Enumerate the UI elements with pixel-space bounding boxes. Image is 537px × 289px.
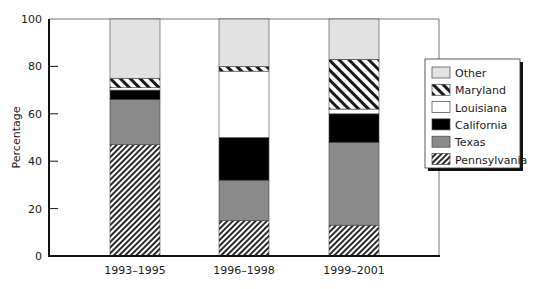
segment-maryland bbox=[219, 66, 269, 71]
legend-item-maryland: Maryland bbox=[432, 84, 506, 97]
legend-label: Maryland bbox=[455, 84, 506, 97]
legend-label: California bbox=[455, 119, 507, 132]
segment-texas bbox=[219, 180, 269, 220]
legend-swatch bbox=[432, 119, 450, 130]
legend-item-pennsylvania: Pennsylvania bbox=[432, 154, 527, 167]
segment-louisiana bbox=[219, 71, 269, 137]
legend-label: Texas bbox=[454, 136, 486, 149]
legend-swatch bbox=[432, 67, 450, 78]
legend-item-texas: Texas bbox=[432, 136, 486, 149]
legend-swatch bbox=[432, 84, 450, 95]
legend-label: Pennsylvania bbox=[455, 154, 527, 167]
segment-louisiana bbox=[329, 109, 379, 114]
y-tick-label: 40 bbox=[28, 155, 42, 168]
x-tick-label: 1996–1998 bbox=[213, 264, 275, 277]
segment-maryland bbox=[110, 78, 160, 87]
legend-label: Louisiana bbox=[455, 102, 507, 115]
segment-other bbox=[110, 19, 160, 78]
x-tick-label: 1999–2001 bbox=[323, 264, 385, 277]
y-tick-label: 80 bbox=[28, 60, 42, 73]
segment-texas bbox=[110, 100, 160, 145]
y-tick-label: 0 bbox=[35, 250, 42, 263]
legend-swatch bbox=[432, 154, 450, 165]
legend: OtherMarylandLouisianaCaliforniaTexasPen… bbox=[425, 59, 527, 171]
segment-louisiana bbox=[110, 88, 160, 90]
x-tick-label: 1993–1995 bbox=[104, 264, 166, 277]
bar-1996–1998: 1996–1998 bbox=[213, 19, 275, 277]
bars: 1993–19951996–19981999–2001 bbox=[104, 19, 385, 277]
segment-texas bbox=[329, 142, 379, 225]
legend-swatch bbox=[432, 136, 450, 147]
y-tick-label: 100 bbox=[21, 13, 42, 26]
segment-other bbox=[329, 19, 379, 59]
y-tick-label: 60 bbox=[28, 108, 42, 121]
stacked-bar-chart: 1993–19951996–19981999–2001 020406080100… bbox=[0, 0, 537, 289]
segment-other bbox=[219, 19, 269, 66]
segment-pennsylvania bbox=[219, 220, 269, 256]
segment-pennsylvania bbox=[110, 145, 160, 256]
segment-maryland bbox=[329, 59, 379, 109]
segment-california bbox=[329, 114, 379, 142]
legend-swatch bbox=[432, 102, 450, 113]
bar-1999–2001: 1999–2001 bbox=[323, 19, 385, 277]
legend-item-louisiana: Louisiana bbox=[432, 102, 507, 115]
legend-label: Other bbox=[455, 67, 487, 80]
legend-item-other: Other bbox=[432, 67, 487, 80]
y-tick-label: 20 bbox=[28, 203, 42, 216]
legend-item-california: California bbox=[432, 119, 507, 132]
segment-pennsylvania bbox=[329, 225, 379, 256]
segment-california bbox=[110, 90, 160, 99]
bar-1993–1995: 1993–1995 bbox=[104, 19, 166, 277]
y-axis-title: Percentage bbox=[10, 106, 23, 168]
segment-california bbox=[219, 138, 269, 181]
